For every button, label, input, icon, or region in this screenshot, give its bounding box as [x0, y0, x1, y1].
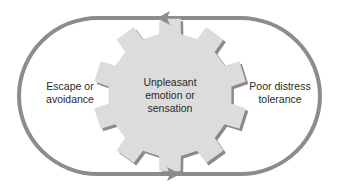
right-line-2: tolerance	[238, 93, 322, 106]
center-line-3: sensation	[120, 102, 220, 115]
unpleasant-emotion-label: Unpleasant emotion or sensation	[120, 76, 220, 115]
left-line-1: Escape or	[30, 80, 110, 93]
left-line-2: avoidance	[30, 93, 110, 106]
escape-avoidance-label: Escape or avoidance	[30, 80, 110, 106]
poor-distress-tolerance-label: Poor distress tolerance	[238, 80, 322, 106]
center-line-1: Unpleasant	[120, 76, 220, 89]
center-line-2: emotion or	[120, 89, 220, 102]
right-line-1: Poor distress	[238, 80, 322, 93]
